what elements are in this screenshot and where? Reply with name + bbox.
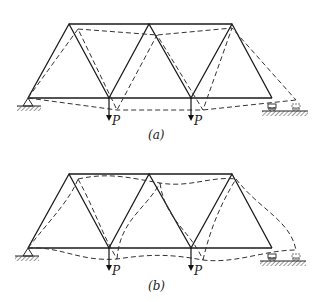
truss-a-original (28, 24, 272, 98)
panel-a (17, 24, 308, 121)
load-label-1-b: P (112, 264, 120, 278)
truss-b-original (28, 174, 272, 248)
caption-b: (b) (148, 279, 165, 293)
pin-support-left-a (17, 98, 41, 111)
roller-support-right-b (260, 254, 306, 266)
load-label-2-a: P (194, 114, 202, 128)
panel-b (15, 174, 306, 271)
truss-diagram (0, 0, 327, 302)
roller-support-right-a (262, 104, 308, 116)
load-label-2-b: P (194, 264, 202, 278)
pin-support-left-b (15, 248, 39, 261)
caption-a: (a) (148, 128, 165, 142)
load-label-1-a: P (112, 114, 120, 128)
